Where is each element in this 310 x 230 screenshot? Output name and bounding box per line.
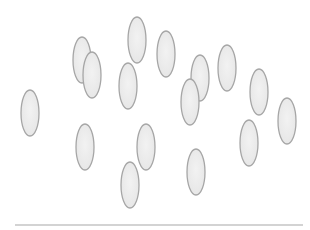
oval-shape <box>278 98 296 144</box>
oval-shape <box>137 124 155 170</box>
oval-shape <box>187 149 205 195</box>
oval-shape <box>240 120 258 166</box>
oval-shape <box>76 124 94 170</box>
oval-group <box>21 17 296 208</box>
oval-shape <box>218 45 236 91</box>
oval-shape <box>21 90 39 136</box>
oval-shape <box>121 162 139 208</box>
oval-shape <box>83 52 101 98</box>
oval-shape <box>119 63 137 109</box>
oval-shape <box>128 17 146 63</box>
oval-shape <box>250 69 268 115</box>
oval-shape <box>157 31 175 77</box>
oval-shape <box>181 79 199 125</box>
oval-scene <box>0 0 310 230</box>
